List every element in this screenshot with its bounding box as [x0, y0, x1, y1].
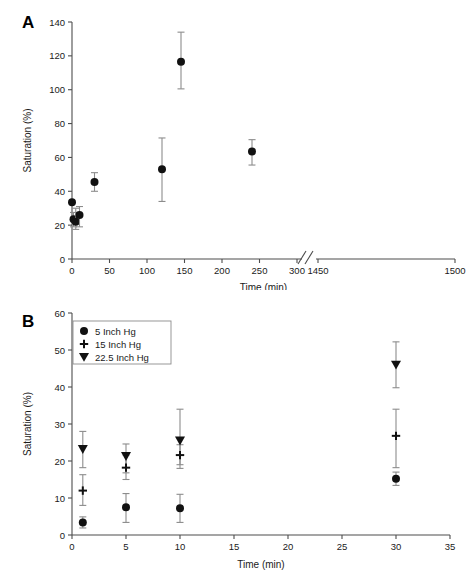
data-point-triangle	[391, 361, 401, 370]
figure-container: A 02040608010012014005010015020025030014…	[0, 0, 472, 573]
panel-a-plot: 0204060801001201400501001502002503001450…	[0, 0, 472, 290]
y-tick-label: 80	[54, 118, 65, 129]
data-point-circle	[79, 518, 87, 526]
data-point-circle	[177, 58, 185, 66]
panel-b-plot: 010203040506005101520253035Time (min)Sat…	[0, 300, 472, 573]
y-tick-label: 40	[54, 382, 65, 393]
x-tick-label: 15	[229, 541, 240, 552]
x-tick-label: 25	[337, 541, 348, 552]
panel-b: B 010203040506005101520253035Time (min)S…	[0, 300, 472, 573]
y-tick-label: 20	[54, 456, 65, 467]
x-tick-label: 0	[69, 541, 74, 552]
x-tick-label: 35	[445, 541, 456, 552]
x-tick-label: 1450	[307, 265, 328, 276]
legend[interactable]: 5 Inch Hg15 Inch Hg22.5 Inch Hg	[73, 321, 171, 364]
x-tick-label: 10	[175, 541, 186, 552]
x-tick-label: 5	[123, 541, 128, 552]
x-tick-label: 300	[289, 265, 305, 276]
panel-a-axes: 0204060801001201400501001502002503001450…	[22, 17, 466, 291]
data-point-triangle	[121, 452, 131, 461]
data-point-circle	[176, 504, 184, 512]
x-tick-label: 50	[104, 265, 115, 276]
data-point-triangle	[78, 445, 88, 454]
y-tick-label: 20	[54, 220, 65, 231]
y-tick-label: 40	[54, 186, 65, 197]
y-axis-title: Saturation (%)	[22, 392, 33, 456]
y-tick-label: 30	[54, 419, 65, 430]
x-tick-label: 1500	[444, 265, 465, 276]
axis-break-marks	[298, 251, 313, 264]
panel-a-series	[68, 32, 256, 229]
data-point-triangle	[175, 437, 185, 446]
data-point-circle	[248, 148, 256, 156]
data-point-circle	[72, 218, 80, 226]
x-tick-label: 150	[177, 265, 193, 276]
data-point-circle	[80, 327, 88, 335]
x-axis-title: Time (min)	[240, 282, 287, 290]
y-tick-label: 50	[54, 345, 65, 356]
y-tick-label: 0	[60, 530, 65, 541]
y-tick-label: 120	[49, 50, 65, 61]
y-axis-title: Saturation (%)	[22, 109, 33, 173]
panel-a: A 02040608010012014005010015020025030014…	[0, 0, 472, 290]
x-tick-label: 250	[252, 265, 268, 276]
data-point-circle	[158, 165, 166, 173]
legend-label: 15 Inch Hg	[95, 339, 141, 350]
y-tick-label: 140	[49, 17, 65, 28]
legend-label: 22.5 Inch Hg	[95, 352, 149, 363]
data-point-circle	[76, 211, 84, 219]
x-tick-label: 200	[214, 265, 230, 276]
y-tick-label: 0	[60, 254, 65, 265]
data-point-circle	[91, 178, 99, 186]
data-point-circle	[122, 503, 130, 511]
x-axis-title: Time (min)	[237, 559, 284, 570]
y-tick-label: 60	[54, 152, 65, 163]
data-point-circle	[68, 198, 76, 206]
legend-label: 5 Inch Hg	[95, 326, 136, 337]
x-tick-label: 100	[139, 265, 155, 276]
y-tick-label: 100	[49, 84, 65, 95]
x-tick-label: 0	[69, 265, 74, 276]
y-tick-label: 60	[54, 308, 65, 319]
break-slash-2	[305, 251, 313, 264]
x-tick-label: 30	[391, 541, 402, 552]
y-tick-label: 10	[54, 493, 65, 504]
x-tick-label: 20	[283, 541, 294, 552]
data-point-circle	[392, 475, 400, 483]
break-slash-1	[298, 251, 306, 264]
panel-b-series	[78, 342, 401, 528]
